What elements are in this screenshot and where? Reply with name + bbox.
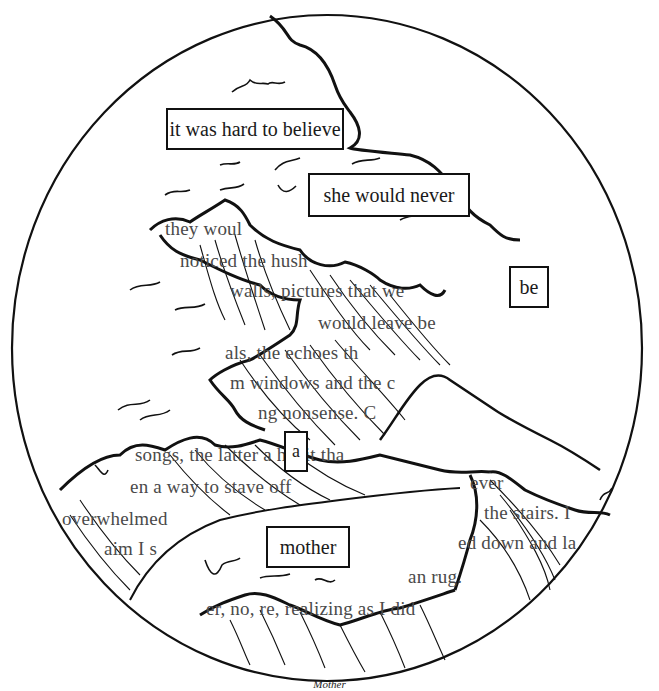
background-text-line: ng nonsense. C [258,402,376,424]
background-text-line: an rug. [408,566,462,588]
background-text-line: songs, the latter a habit tha [135,444,344,466]
highlighted-phrase-text: be [520,276,539,299]
background-text-line: ever [470,472,504,494]
background-text-line: als, the echoes th [225,342,358,364]
artwork-caption: Mother [0,678,659,690]
highlighted-phrase-text: she would never [323,184,454,207]
background-text-line: the stairs. I [484,502,571,524]
highlighted-phrase-text: a [292,441,300,462]
background-text-line: walls, pictures that we [230,280,405,302]
highlighted-phrase-text: mother [280,536,337,559]
background-text-line: overwhelmed [62,508,168,530]
highlighted-phrase-text: it was hard to believe [169,118,340,141]
highlighted-phrase-3: be [509,266,549,308]
background-text-line: ed down and la [458,532,576,554]
background-text-line: they woul [165,218,242,240]
highlighted-phrase-4: a [284,431,308,472]
erasure-poem-artwork: they woul noticed the hush walls, pictur… [0,0,659,691]
background-text-line: m windows and the c [230,372,395,394]
background-text-line: would leave be [318,312,436,334]
background-text-line: noticed the hush [180,250,308,272]
highlighted-phrase-5: mother [266,526,350,568]
highlighted-phrase-1: it was hard to believe [166,108,344,150]
highlighted-phrase-2: she would never [308,173,470,217]
background-text-line: en a way to stave off [130,476,292,498]
background-text-line: er, no, re, realizing as I did [206,598,415,620]
background-text-line: aim I s [104,538,157,560]
